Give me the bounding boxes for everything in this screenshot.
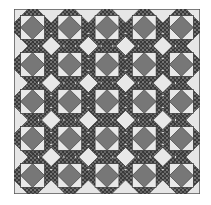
quilt-blocks [14,9,200,194]
quilt-pattern [14,9,200,194]
